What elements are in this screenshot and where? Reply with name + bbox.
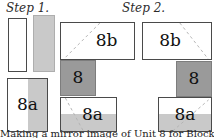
- step1-white-strip: [8, 18, 27, 72]
- step2-right-unit-8b: 8b: [142, 22, 212, 60]
- step2-right-unit-8a: 8a: [158, 97, 212, 132]
- step1-gray-strip: [33, 15, 55, 72]
- step2-right-unit-8: 8: [176, 61, 212, 97]
- step1-label: Step 1.: [6, 1, 49, 15]
- unit-8b-label: 8b: [143, 32, 197, 49]
- step2-left-unit-8: 8: [60, 60, 96, 96]
- step1-pieced-unit-8a: 8a: [7, 78, 48, 132]
- quilt-instruction-diagram: Step 1. 8a Step 2. 8b 8 8a 8b 8: [0, 0, 214, 138]
- unit-8a-label: 8a: [69, 105, 116, 122]
- unit-8-label: 8: [61, 69, 95, 86]
- step2-left-unit-8b: 8b: [60, 22, 135, 60]
- unit-8a-label: 8a: [159, 105, 211, 122]
- unit-8a-label: 8a: [8, 96, 47, 113]
- figure-caption: Making a mirror image of Unit 8 for Bloc…: [0, 128, 214, 138]
- unit-8-label: 8: [177, 70, 211, 87]
- step2-label: Step 2.: [122, 1, 165, 15]
- unit-8b-label: 8b: [79, 32, 134, 49]
- step2-left-unit-8a: 8a: [60, 97, 117, 132]
